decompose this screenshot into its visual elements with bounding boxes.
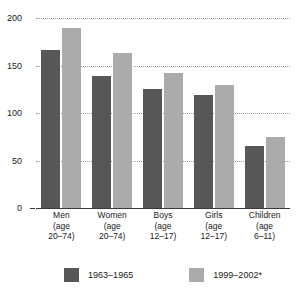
chart-legend: 1963–19651999–2002* xyxy=(36,268,290,282)
legend-label: 1963–1965 xyxy=(88,271,133,280)
x-axis-category-label-line: (age xyxy=(240,221,288,232)
y-axis-tick-label: 150 xyxy=(0,62,22,71)
bar-group xyxy=(240,18,288,208)
bar-chart-figure: 050100150200 Men(age20–74)Women(age20–74… xyxy=(0,0,302,302)
bar xyxy=(245,146,264,208)
y-axis-tick-label: 200 xyxy=(0,14,22,23)
bar-group xyxy=(88,18,136,208)
bar xyxy=(266,137,285,208)
x-axis-category-label-line: 20–74) xyxy=(37,231,85,242)
x-axis-category-label: Girls(age12–17) xyxy=(190,210,238,242)
x-axis-category-label-line: (age xyxy=(190,221,238,232)
axis-baseline xyxy=(36,208,290,209)
x-axis-category-label-line: (age xyxy=(139,221,187,232)
plot-area: 050100150200 xyxy=(36,18,290,208)
bar-group xyxy=(139,18,187,208)
bar xyxy=(194,95,213,208)
bar xyxy=(62,28,81,209)
x-axis-category-label-line: Girls xyxy=(190,210,238,221)
legend-swatch xyxy=(64,268,79,282)
x-axis-category-label-line: Men xyxy=(37,210,85,221)
x-axis-category-label-line: Women xyxy=(88,210,136,221)
x-axis-category-label-line: Boys xyxy=(139,210,187,221)
x-axis-labels: Men(age20–74)Women(age20–74)Boys(age12–1… xyxy=(36,210,290,242)
x-axis-category-label: Children(age6–11) xyxy=(240,210,288,242)
legend-label: 1999–2002* xyxy=(213,271,262,280)
y-axis-tick-label: 0 xyxy=(0,204,22,213)
y-axis-tick-label: 50 xyxy=(0,157,22,166)
x-axis-category-label: Boys(age12–17) xyxy=(139,210,187,242)
x-axis-category-label-line: Children xyxy=(240,210,288,221)
x-axis-category-label: Women(age20–74) xyxy=(88,210,136,242)
legend-item[interactable]: 1963–1965 xyxy=(64,268,133,282)
bar xyxy=(143,89,162,208)
y-axis-tick-label: 100 xyxy=(0,109,22,118)
bar xyxy=(41,50,60,208)
legend-swatch xyxy=(189,268,204,282)
x-axis-category-label: Men(age20–74) xyxy=(37,210,85,242)
x-axis-category-label-line: 12–17) xyxy=(139,231,187,242)
bar xyxy=(113,53,132,208)
x-axis-category-label-line: (age xyxy=(37,221,85,232)
y-axis-tick-mark xyxy=(30,208,35,209)
bar xyxy=(92,76,111,208)
bar-group xyxy=(37,18,85,208)
x-axis-category-label-line: 20–74) xyxy=(88,231,136,242)
x-axis-category-label-line: 12–17) xyxy=(190,231,238,242)
x-axis-category-label-line: (age xyxy=(88,221,136,232)
x-axis-category-label-line: 6–11) xyxy=(240,231,288,242)
bar xyxy=(215,85,234,209)
legend-item[interactable]: 1999–2002* xyxy=(189,268,262,282)
bar-group xyxy=(190,18,238,208)
bars-layer xyxy=(36,18,290,208)
bar xyxy=(164,73,183,208)
